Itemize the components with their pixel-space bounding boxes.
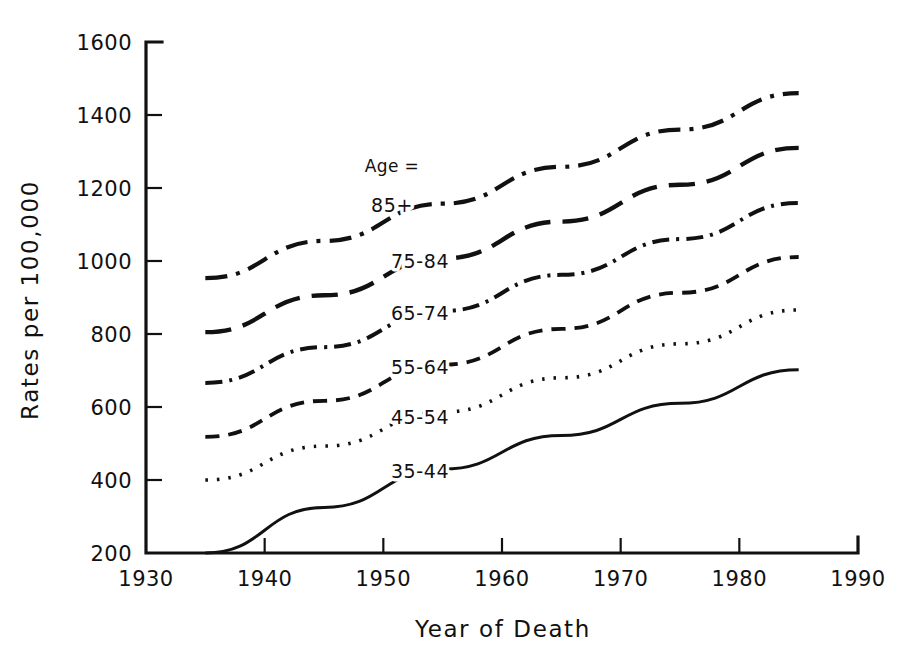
chart-background <box>0 0 918 654</box>
y-tick-label: 400 <box>90 469 132 493</box>
x-axis-title: Year of Death <box>414 616 591 642</box>
mortality-rate-line-chart: 1930194019501960197019801990 20040060080… <box>0 0 918 654</box>
y-tick-label: 600 <box>90 396 132 420</box>
series-label-35-44: 35-44 <box>391 460 449 482</box>
series-label-75-84: 75-84 <box>391 250 449 272</box>
y-tick-label: 200 <box>90 542 132 566</box>
y-tick-label: 1200 <box>77 177 132 201</box>
x-tick-label: 1930 <box>118 567 173 591</box>
y-tick-label: 1600 <box>77 31 132 55</box>
y-tick-label: 1400 <box>77 104 132 128</box>
x-tick-label: 1960 <box>474 567 529 591</box>
y-tick-label: 1000 <box>77 250 132 274</box>
x-tick-label: 1950 <box>356 567 411 591</box>
x-tick-label: 1940 <box>237 567 292 591</box>
y-axis-title: Rates per 100,000 <box>17 180 43 420</box>
x-tick-label: 1980 <box>712 567 767 591</box>
series-label-55-64: 55-64 <box>391 356 449 378</box>
x-tick-label: 1970 <box>593 567 648 591</box>
series-label-45-54: 45-54 <box>391 406 449 428</box>
chart-figure: 1930194019501960197019801990 20040060080… <box>0 0 918 654</box>
series-label-65-74: 65-74 <box>391 302 449 324</box>
y-tick-label: 800 <box>90 323 132 347</box>
series-label-85plus: 85+ <box>371 194 413 216</box>
legend-title: Age = <box>365 156 420 176</box>
x-tick-label: 1990 <box>830 567 885 591</box>
